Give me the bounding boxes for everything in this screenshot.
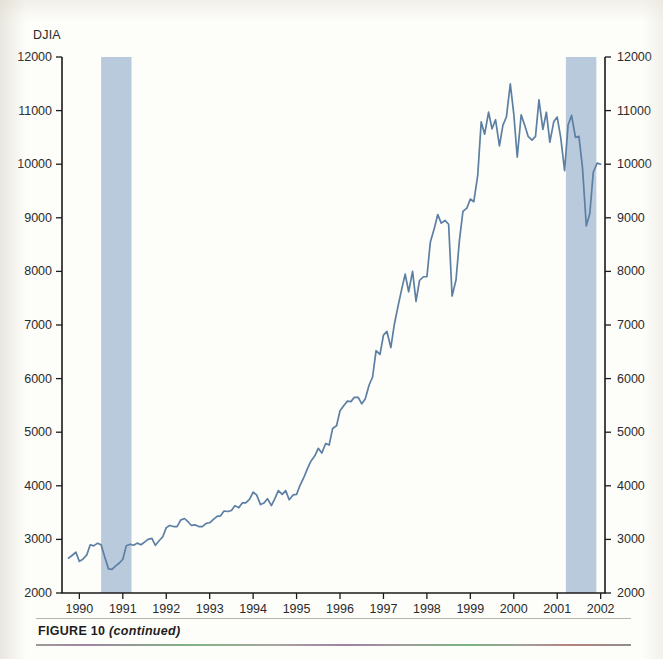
y-axis-tick-label-right: 7000 <box>617 319 663 332</box>
y-axis-tick-label-right: 5000 <box>617 426 663 439</box>
y-axis-tick-label-right: 3000 <box>617 533 663 546</box>
shaded-region-recession-1990-1991 <box>101 57 131 593</box>
y-axis-tick-label-left: 6000 <box>0 373 52 386</box>
figure-number: FIGURE 10 <box>38 624 105 638</box>
y-axis-tick-label-right: 11000 <box>617 105 663 118</box>
caption-rule-top <box>36 618 631 619</box>
figure-page: DJIA 20003000400050006000700080009000100… <box>0 0 663 659</box>
y-axis-tick-label-right: 9000 <box>617 212 663 225</box>
djia-chart: DJIA 20003000400050006000700080009000100… <box>0 0 663 610</box>
y-axis-tick-label-right: 8000 <box>617 265 663 278</box>
y-axis-title: DJIA <box>33 28 61 42</box>
shaded-region-recession-2001 <box>566 57 596 593</box>
y-axis-tick-label-left: 9000 <box>0 212 52 225</box>
y-axis-tick-label-left: 2000 <box>0 587 52 600</box>
y-axis-tick-label-right: 2000 <box>617 587 663 600</box>
y-axis-tick-label-right: 10000 <box>617 158 663 171</box>
y-axis-tick-label-left: 12000 <box>0 51 52 64</box>
y-axis-tick-label-left: 5000 <box>0 426 52 439</box>
y-axis-tick-label-left: 3000 <box>0 533 52 546</box>
y-axis-tick-label-left: 8000 <box>0 265 52 278</box>
y-axis-tick-label-left: 4000 <box>0 480 52 493</box>
caption-rule-bottom <box>36 644 631 646</box>
figure-continued-note: (continued) <box>109 624 180 638</box>
series-line-DJIA <box>69 84 601 570</box>
figure-caption-block: FIGURE 10 (continued) <box>0 610 663 659</box>
axis-frame <box>62 57 605 593</box>
figure-caption: FIGURE 10 (continued) <box>38 624 180 638</box>
y-axis-tick-label-left: 11000 <box>0 105 52 118</box>
y-axis-tick-label-right: 12000 <box>617 51 663 64</box>
y-axis-tick-label-left: 7000 <box>0 319 52 332</box>
y-axis-tick-label-right: 6000 <box>617 373 663 386</box>
y-axis-tick-label-right: 4000 <box>617 480 663 493</box>
y-axis-tick-label-left: 10000 <box>0 158 52 171</box>
chart-canvas <box>0 0 663 610</box>
